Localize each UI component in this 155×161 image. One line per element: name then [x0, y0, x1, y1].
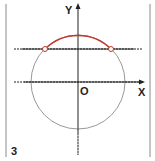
y-axis-arrow-icon [76, 3, 81, 9]
origin-label: O [80, 86, 89, 97]
diagram-canvas [0, 0, 155, 161]
intersection-point-left [43, 47, 48, 52]
y-axis-label: Y [65, 5, 72, 16]
intersection-point-right [109, 47, 114, 52]
x-axis-arrow-icon [139, 80, 145, 85]
x-axis-label: X [138, 87, 145, 98]
panel-number: 3 [11, 146, 17, 157]
